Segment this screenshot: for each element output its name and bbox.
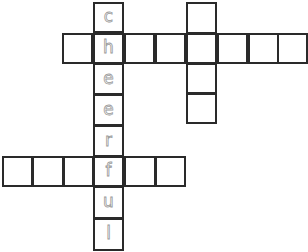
crossword-cell-empty[interactable] [155,156,186,187]
cell-letter: e [103,101,113,118]
crossword-cell-letter-e[interactable]: e [93,63,124,95]
crossword-cell-empty[interactable] [217,33,248,64]
crossword-cell-empty[interactable] [63,156,94,187]
crossword-cell-empty[interactable] [248,33,279,64]
crossword-cell-letter-e[interactable]: e [93,94,124,126]
crossword-grid: cheerful [0,0,308,252]
cell-letter: f [106,162,112,179]
crossword-cell-empty[interactable] [2,156,33,187]
crossword-cell-letter-r[interactable]: r [93,125,124,157]
crossword-cell-empty[interactable] [124,33,155,64]
crossword-cell-letter-f[interactable]: f [93,156,124,187]
cell-letter: c [104,8,113,25]
crossword-cell-empty[interactable] [277,33,308,64]
cell-letter: e [103,70,113,87]
crossword-cell-letter-h[interactable]: h [93,33,124,64]
crossword-cell-empty[interactable] [186,93,217,124]
cell-letter: r [105,132,112,149]
cell-letter: l [106,225,111,242]
crossword-cell-empty[interactable] [186,63,217,94]
cell-letter: u [103,193,114,210]
crossword-cell-empty[interactable] [186,2,217,34]
crossword-cell-letter-l[interactable]: l [93,218,124,251]
crossword-cell-empty[interactable] [186,33,217,64]
crossword-cell-empty[interactable] [124,156,156,187]
crossword-cell-empty[interactable] [155,33,186,64]
cell-letter: h [103,39,114,56]
crossword-cell-letter-u[interactable]: u [93,186,124,219]
crossword-cell-empty[interactable] [32,156,64,187]
crossword-cell-empty[interactable] [62,33,93,64]
crossword-cell-letter-c[interactable]: c [93,2,124,33]
